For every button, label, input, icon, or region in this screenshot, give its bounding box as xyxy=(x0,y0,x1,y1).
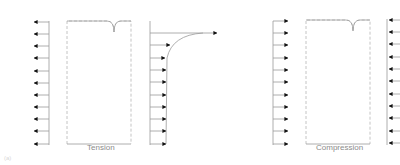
compression-caption: Compression xyxy=(316,143,363,152)
panel-label: (a) xyxy=(4,155,11,161)
compression-right-arrows xyxy=(387,19,400,145)
tension-specimen xyxy=(67,21,131,144)
flow-profile xyxy=(150,21,217,145)
compression-left-arrows xyxy=(273,21,288,145)
tension-caption: Tension xyxy=(87,143,115,152)
compression-specimen xyxy=(306,20,370,144)
tension-load-arrows xyxy=(34,21,49,145)
stress-diagram xyxy=(0,0,400,165)
